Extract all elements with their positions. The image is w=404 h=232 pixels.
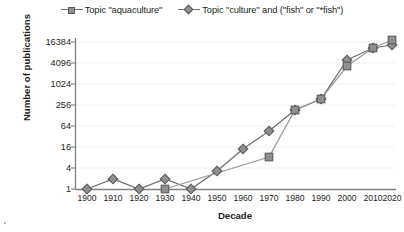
x-axis-title: Decade bbox=[74, 210, 396, 221]
x-tick-label: 1930 bbox=[155, 193, 174, 203]
x-tick-label: 2020 bbox=[382, 193, 401, 203]
y-axis-line bbox=[71, 38, 76, 190]
x-tick-label: 1990 bbox=[311, 193, 330, 203]
series-line-aquaculture bbox=[165, 40, 392, 189]
publications-by-decade-chart: Topic "aquaculture" Topic "culture" and … bbox=[0, 0, 404, 232]
x-tick-label: 1900 bbox=[77, 193, 96, 203]
x-tick-label: 1970 bbox=[259, 193, 278, 203]
corner-artifact bbox=[4, 222, 6, 224]
x-tick-label: 1910 bbox=[103, 193, 122, 203]
x-tick-label: 1960 bbox=[233, 193, 252, 203]
x-tick-label: 1940 bbox=[181, 193, 200, 203]
series-markers-aquaculture bbox=[161, 36, 396, 193]
x-tick-label: 1950 bbox=[207, 193, 226, 203]
x-tick-label: 2000 bbox=[337, 193, 356, 203]
x-tick-label: 1980 bbox=[285, 193, 304, 203]
x-tick-label: 1920 bbox=[129, 193, 148, 203]
x-tick-label: 2010 bbox=[363, 193, 382, 203]
